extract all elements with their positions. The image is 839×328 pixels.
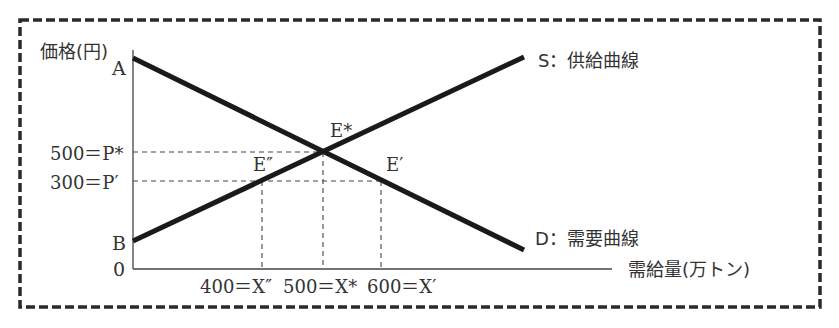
- point-a-label: A: [111, 57, 126, 79]
- x-axis-label: 需給量(万トン): [628, 259, 750, 280]
- supply-label: S：供給曲線: [538, 50, 639, 71]
- e-prime-label: E′: [386, 154, 403, 175]
- point-b-label: B: [112, 232, 126, 254]
- qty-label-x-prime: 600＝X′: [367, 276, 436, 297]
- qty-label-x-star: 500＝X*: [283, 276, 357, 297]
- price-label-p-star: 500＝P*: [50, 143, 123, 164]
- origin-label: 0: [113, 258, 125, 280]
- equilibrium-label: E*: [330, 120, 352, 141]
- price-label-p-prime: 300＝P′: [50, 172, 119, 193]
- qty-label-x-double-prime: 400＝X″: [200, 276, 272, 297]
- demand-label: D：需要曲線: [535, 228, 639, 249]
- supply-demand-diagram: 価格(円) A B 0 500＝P* 300＝P′ E* E″ E′ 400＝X…: [0, 0, 839, 328]
- y-axis-label: 価格(円): [40, 41, 108, 62]
- e-double-prime-label: E″: [253, 154, 273, 175]
